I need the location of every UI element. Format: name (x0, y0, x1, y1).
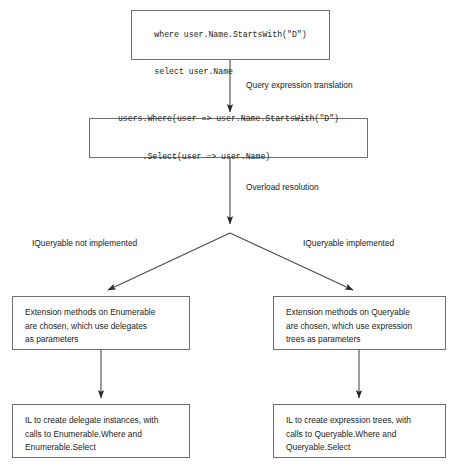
queryable-methods-line-3: trees as parameters (286, 333, 445, 347)
edge-label-iqueryable-not-implemented: IQueryable not implemented (32, 238, 137, 249)
enumerable-methods-line-3: as parameters (25, 333, 189, 347)
il-delegates-line-1: IL to create delegate instances, with (25, 414, 189, 428)
node-enumerable-methods: Extension methods on Enumerable are chos… (12, 296, 190, 350)
node-queryable-methods: Extension methods on Queryable are chose… (273, 296, 446, 350)
il-delegates-line-2: calls to Enumerable.Where and (25, 428, 189, 442)
query-expression-line-3: select user.Name (154, 66, 306, 79)
edge-label-overload-resolution: Overload resolution (246, 182, 319, 193)
flowchart-canvas: from user in users where user.Name.Start… (0, 0, 461, 469)
edge-label-iqueryable-implemented: IQueryable implemented (303, 238, 394, 249)
node-il-expression-trees: IL to create expression trees, with call… (273, 404, 446, 458)
queryable-methods-line-2: are chosen, which use expression (286, 320, 445, 334)
query-expression-line-1: from user in users (154, 0, 306, 4)
queryable-methods-line-1: Extension methods on Queryable (286, 306, 445, 320)
enumerable-methods-line-2: are chosen, which use delegates (25, 320, 189, 334)
node-query-expression: from user in users where user.Name.Start… (131, 10, 330, 60)
il-expression-trees-line-3: Queryable.Select (286, 441, 445, 455)
node-il-delegate-instances: IL to create delegate instances, with ca… (12, 404, 190, 458)
enumerable-methods-line-1: Extension methods on Enumerable (25, 306, 189, 320)
il-expression-trees-line-2: calls to Queryable.Where and (286, 428, 445, 442)
node-method-calls: users.Where(user => user.Name.StartsWith… (89, 118, 368, 158)
query-expression-line-2: where user.Name.StartsWith("D") (154, 29, 306, 42)
il-expression-trees-line-1: IL to create expression trees, with (286, 414, 445, 428)
method-calls-line-1: users.Where(user => user.Name.StartsWith… (118, 113, 339, 126)
method-calls-line-2: .Select(user => user.Name) (118, 151, 339, 164)
il-delegates-line-3: Enumerable.Select (25, 441, 189, 455)
